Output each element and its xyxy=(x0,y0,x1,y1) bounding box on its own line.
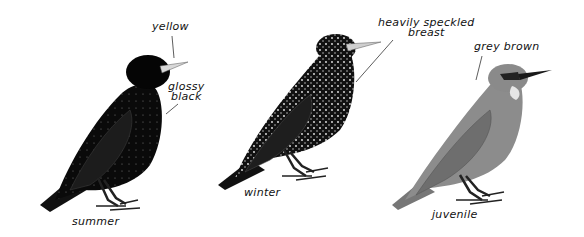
caption-text: winter xyxy=(244,186,280,199)
annotation-text-line2: black xyxy=(168,92,205,102)
winter-bird xyxy=(218,34,393,190)
annotation-text-line2: breast xyxy=(378,28,475,38)
annotation-yellow: yellow xyxy=(152,22,189,32)
annotation-text: grey brown xyxy=(474,40,539,53)
starling-plumage-illustration: yellow glossy black summer heavily speck… xyxy=(0,0,584,237)
annotation-glossy-black: glossy black xyxy=(168,82,205,102)
caption-text: juvenile xyxy=(432,208,478,221)
summer-bird xyxy=(40,36,188,212)
caption-winter: winter xyxy=(244,188,280,198)
juvenile-bird xyxy=(392,56,552,210)
annotation-text: yellow xyxy=(152,20,189,33)
birds-artwork xyxy=(0,0,584,237)
caption-summer: summer xyxy=(72,217,119,227)
caption-juvenile: juvenile xyxy=(432,210,478,220)
annotation-grey-brown: grey brown xyxy=(474,42,539,52)
caption-text: summer xyxy=(72,215,119,228)
annotation-heavily-speckled-breast: heavily speckled breast xyxy=(378,18,475,38)
